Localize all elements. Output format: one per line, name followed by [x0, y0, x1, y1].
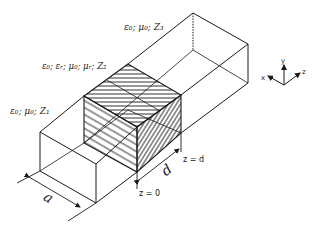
axis-x-label: x [261, 74, 265, 82]
region-3-label: ε₀; μ₀; Z₃ [124, 22, 164, 32]
axis-z-label: z [302, 68, 306, 76]
region-2-label: ε₀; εᵣ; μ₀; μᵣ; Z₂ [42, 61, 107, 71]
dimension-d-label: d [158, 161, 175, 179]
dimension-a-label: a [41, 188, 56, 206]
dielectric-slab [84, 64, 181, 172]
axis-y-label: y [281, 57, 285, 65]
z0-label: z = 0 [139, 189, 160, 198]
region-1-label: ε₀; μ₀; Z₁ [10, 106, 50, 116]
waveguide-diagram: a d z = 0 z = d ε₀; μ₀; Z₁ ε₀; εᵣ; μ₀; μ… [0, 0, 319, 227]
zd-label: z = d [183, 155, 204, 164]
coordinate-axes [268, 65, 300, 85]
